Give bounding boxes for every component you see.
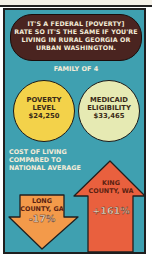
percent-value: -17% bbox=[14, 213, 70, 224]
long-county-label: LONG COUNTY, GA -17% bbox=[14, 198, 70, 224]
percent-value: +161% bbox=[82, 205, 140, 216]
county-name: COUNTY, WA bbox=[82, 188, 140, 196]
county-name: COUNTY, GA bbox=[14, 206, 70, 214]
king-county-label: KING COUNTY, WA +161% bbox=[82, 180, 140, 216]
